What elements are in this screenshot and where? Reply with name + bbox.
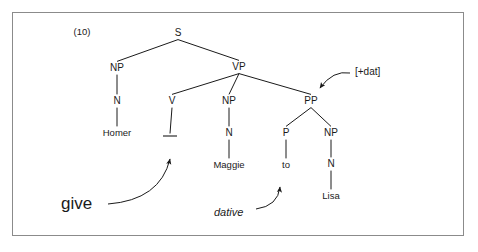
node-n-iobj: N [327,159,334,169]
tree-edge-pp-to-p [286,108,311,127]
node-np-obj: NP [222,96,236,106]
tree-edge-s-to-vp [178,40,239,61]
node-v: V [169,96,176,106]
node-vp: VP [232,62,245,72]
annotation-dat-feature: [+dat] [355,67,380,77]
node-p: P [283,128,290,138]
node-np-iobj: NP [324,128,338,138]
terminal-to: to [282,160,290,170]
tree-edge-vp-to-v [172,74,239,95]
tree-edge-s-to-np-subj [117,40,178,62]
annotation-give-label: give [61,195,92,212]
node-pp: PP [304,96,317,106]
node-np-subj: NP [110,63,124,73]
node-n-obj: N [225,128,232,138]
tree-edge-v-to-v-trace [170,108,172,134]
tree-edge-vp-to-pp [239,74,311,95]
terminal-maggie: Maggie [213,160,244,170]
tree-edge-pp-to-np-iobj [311,108,331,127]
node-s: S [175,28,182,38]
annotation-arrow-dat-feature [320,73,350,88]
terminal-lisa: Lisa [322,191,339,201]
annotation-arrow-give-label [108,159,170,204]
annotation-dative-label: dative [214,207,243,218]
figure-root: SNPVPNVNPPPHomerNPNPMaggietoNLisa (10) [… [0,0,478,252]
terminal-homer: Homer [103,128,132,138]
node-n-subj: N [113,96,120,106]
example-number: (10) [74,27,91,37]
annotation-arrow-dative-label [256,187,280,209]
